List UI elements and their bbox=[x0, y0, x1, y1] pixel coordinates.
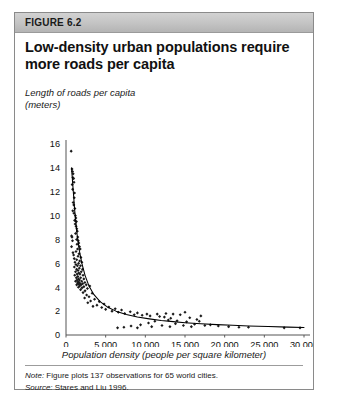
svg-text:20,000: 20,000 bbox=[211, 340, 239, 348]
svg-text:10: 10 bbox=[50, 211, 60, 221]
svg-text:25,000: 25,000 bbox=[250, 340, 278, 348]
figure-title: Low-density urban populations require mo… bbox=[25, 39, 305, 72]
note-line: Note: Figure plots 137 observations for … bbox=[25, 370, 305, 382]
data-points bbox=[70, 150, 302, 330]
source-line: Source: Stares and Liu 1996. bbox=[25, 382, 305, 394]
svg-text:0: 0 bbox=[63, 340, 68, 348]
source-lead: Source: bbox=[25, 383, 53, 392]
x-axis-title: Population density (people per square ki… bbox=[15, 349, 313, 360]
x-tick-labels: 05,00010,00015,00020,00025,00030,000 bbox=[63, 340, 313, 348]
svg-text:14: 14 bbox=[50, 163, 60, 173]
footer-divider bbox=[25, 365, 303, 366]
y-axis-title-line2: (meters) bbox=[25, 99, 275, 111]
svg-text:2: 2 bbox=[55, 306, 60, 316]
svg-text:12: 12 bbox=[50, 187, 60, 197]
note-lead: Note: bbox=[25, 371, 44, 380]
svg-text:5,000: 5,000 bbox=[94, 340, 117, 348]
source-text: Stares and Liu 1996. bbox=[53, 383, 129, 392]
scatter-plot-svg: 0246810121416 05,00010,00015,00020,00025… bbox=[15, 117, 313, 347]
figure-notes: Note: Figure plots 137 observations for … bbox=[25, 370, 305, 393]
figure-box: FIGURE 6.2 Low-density urban populations… bbox=[14, 12, 314, 390]
y-tick-labels: 0246810121416 bbox=[50, 139, 60, 340]
svg-text:0: 0 bbox=[55, 330, 60, 340]
y-axis-title: Length of roads per capita (meters) bbox=[25, 87, 275, 111]
svg-text:6: 6 bbox=[55, 259, 60, 269]
svg-text:30,000: 30,000 bbox=[290, 340, 313, 348]
plot-area: 0246810121416 05,00010,00015,00020,00025… bbox=[15, 117, 313, 347]
svg-text:16: 16 bbox=[50, 139, 60, 149]
svg-text:8: 8 bbox=[55, 235, 60, 245]
fit-curve bbox=[72, 168, 304, 328]
figure-label: FIGURE 6.2 bbox=[25, 17, 81, 28]
y-axis-title-line1: Length of roads per capita bbox=[25, 87, 275, 99]
figure-header-band: FIGURE 6.2 bbox=[15, 13, 313, 33]
note-text: Figure plots 137 observations for 65 wor… bbox=[44, 371, 218, 380]
svg-text:15,000: 15,000 bbox=[171, 340, 199, 348]
svg-text:10,000: 10,000 bbox=[131, 340, 159, 348]
svg-text:4: 4 bbox=[55, 283, 60, 293]
